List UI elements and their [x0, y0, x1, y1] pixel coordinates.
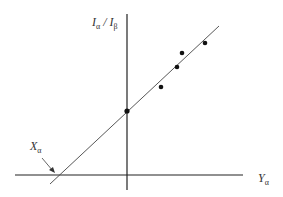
data-point [180, 51, 185, 56]
data-point [159, 85, 164, 90]
intercept-label: Xα [29, 139, 42, 155]
data-point [175, 65, 180, 70]
x-axis-label: Yα [258, 171, 270, 187]
y-axis-label: Iα / Iβ [91, 15, 118, 31]
data-point [203, 41, 208, 46]
diagram-canvas: Xα Yα Iα / Iβ [0, 0, 283, 197]
fit-line [50, 26, 219, 184]
intercept-point [124, 108, 129, 113]
